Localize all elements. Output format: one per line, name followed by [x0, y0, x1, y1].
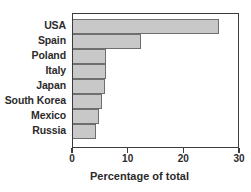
category-label-russia: Russia	[0, 123, 69, 138]
bar-row	[73, 64, 238, 79]
bar-south-korea	[73, 94, 102, 109]
bar-japan	[73, 79, 105, 94]
bar-poland	[73, 49, 106, 64]
category-label-spain: Spain	[0, 33, 69, 48]
plot-area	[72, 13, 239, 148]
bar-row	[73, 34, 238, 49]
category-label-mexico: Mexico	[0, 108, 69, 123]
category-label-japan: Japan	[0, 78, 69, 93]
bar-row	[73, 109, 238, 124]
x-axis-title: Percentage of total	[0, 170, 251, 182]
bar-series	[73, 19, 238, 139]
bar-italy	[73, 64, 106, 79]
category-axis-labels: USA Spain Poland Italy Japan South Korea…	[0, 18, 69, 138]
bar-row	[73, 124, 238, 139]
bar-russia	[73, 124, 96, 139]
category-label-italy: Italy	[0, 63, 69, 78]
x-tick-label: 0	[57, 153, 87, 164]
category-label-south-korea: South Korea	[0, 93, 69, 108]
bar-row	[73, 94, 238, 109]
bar-chart-figure: USA Spain Poland Italy Japan South Korea…	[0, 0, 251, 192]
bar-usa	[73, 19, 219, 34]
bar-spain	[73, 34, 141, 49]
x-tick-label: 20	[168, 153, 198, 164]
x-tick-label: 30	[224, 153, 251, 164]
bar-mexico	[73, 109, 99, 124]
bar-row	[73, 79, 238, 94]
bar-row	[73, 19, 238, 34]
bar-row	[73, 49, 238, 64]
x-tick-label: 10	[113, 153, 143, 164]
category-label-poland: Poland	[0, 48, 69, 63]
category-label-usa: USA	[0, 18, 69, 33]
